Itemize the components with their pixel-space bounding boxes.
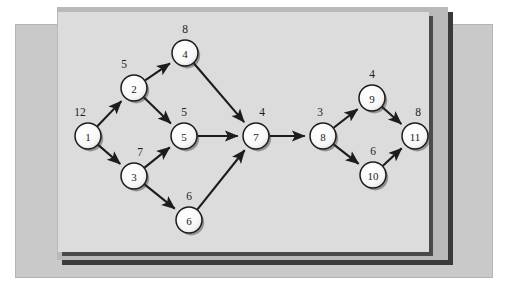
weight-label-10: 6 [370, 145, 376, 157]
edge-2-to-4 [145, 63, 170, 80]
edge-8-to-9 [334, 109, 358, 128]
weight-label-6: 6 [186, 190, 192, 202]
weight-label-2: 5 [121, 58, 127, 70]
edge-6-to-7 [197, 150, 244, 209]
weight-label-8: 3 [317, 106, 323, 118]
node-6[interactable]: 6 [176, 207, 202, 233]
edge-4-to-7 [194, 63, 244, 122]
weight-label-4: 8 [182, 23, 188, 35]
edge-9-to-11 [382, 107, 401, 124]
edge-1-to-3 [98, 145, 120, 164]
weight-label-1: 12 [74, 106, 86, 118]
weight-label-5: 5 [181, 106, 187, 118]
weight-label-11: 8 [415, 106, 421, 118]
edge-2-to-5 [144, 97, 171, 123]
edge-3-to-5 [145, 147, 170, 167]
node-2[interactable]: 2 [121, 75, 147, 101]
node-label-3: 3 [131, 171, 137, 183]
node-label-4: 4 [182, 48, 188, 60]
node-7[interactable]: 7 [243, 123, 269, 149]
node-label-5: 5 [181, 131, 187, 143]
node-label-2: 2 [131, 83, 137, 95]
weight-label-7: 4 [259, 106, 265, 118]
node-label-1: 1 [85, 131, 91, 143]
node-5[interactable]: 5 [171, 123, 197, 149]
node-10[interactable]: 10 [360, 162, 386, 188]
node-label-8: 8 [320, 131, 326, 143]
node-layer: 1234567891011 [75, 40, 428, 233]
node-4[interactable]: 4 [172, 40, 198, 66]
node-label-7: 7 [253, 131, 259, 143]
weight-label-3: 7 [137, 146, 143, 158]
node-label-6: 6 [186, 215, 192, 227]
figure-caption [40, 291, 370, 303]
edge-1-to-2 [97, 101, 121, 126]
edge-8-to-10 [334, 144, 359, 164]
edge-10-to-11 [383, 148, 402, 165]
graph-diagram: 1234567891011 125785643468 [58, 12, 429, 252]
edge-3-to-6 [145, 184, 175, 208]
node-8[interactable]: 8 [310, 123, 336, 149]
node-label-11: 11 [410, 131, 421, 143]
figure-screenshot: 1234567891011 125785643468 [0, 0, 509, 303]
node-3[interactable]: 3 [121, 163, 147, 189]
node-label-10: 10 [368, 170, 380, 182]
node-9[interactable]: 9 [359, 85, 385, 111]
node-11[interactable]: 11 [402, 123, 428, 149]
node-label-9: 9 [369, 93, 375, 105]
weight-label-9: 4 [369, 68, 375, 80]
node-1[interactable]: 1 [75, 123, 101, 149]
